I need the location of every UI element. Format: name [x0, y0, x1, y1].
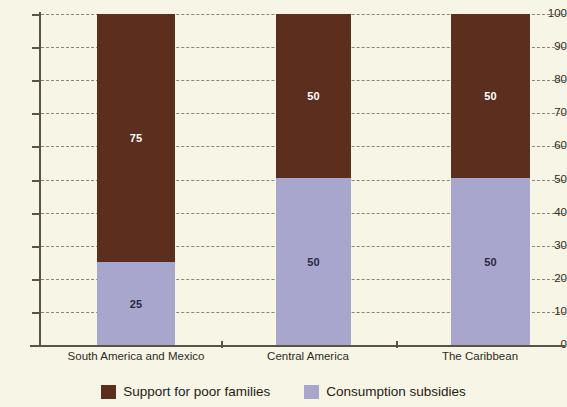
bar-segment-support-for-poor-families: 75 — [97, 14, 175, 262]
legend-label: Consumption subsidies — [326, 384, 466, 399]
y-tick-label-90: 90 — [539, 41, 567, 52]
bar-value-label: 75 — [130, 132, 143, 144]
bar-segment-support-for-poor-families: 50 — [451, 14, 530, 178]
y-tick-label-40: 40 — [539, 207, 567, 218]
stacked-bar-chart: 100 90 80 70 60 50 40 30 20 10 0 75 25 5… — [0, 0, 567, 407]
x-axis-label-central-america: Central America — [233, 350, 383, 362]
legend-item-consumption-subsidies: Consumption subsidies — [304, 384, 466, 399]
bar-value-label: 25 — [130, 298, 143, 310]
bar-central-america: 50 50 — [276, 14, 351, 345]
y-tick-label-70: 70 — [539, 107, 567, 118]
y-tick-label-50: 50 — [539, 174, 567, 185]
bar-segment-consumption-subsidies: 50 — [451, 178, 530, 345]
bar-value-label: 50 — [484, 256, 497, 268]
bar-value-label: 50 — [307, 90, 320, 102]
bar-the-caribbean: 50 50 — [451, 14, 530, 345]
x-tick-mark — [221, 341, 223, 348]
bar-segment-consumption-subsidies: 50 — [276, 178, 351, 345]
legend-label: Support for poor families — [123, 384, 270, 399]
bar-segment-support-for-poor-families: 50 — [276, 14, 351, 178]
bar-value-label: 50 — [307, 256, 320, 268]
x-axis-label-south-america-and-mexico: South America and Mexico — [41, 350, 231, 362]
bar-value-label: 50 — [484, 90, 497, 102]
x-axis-line — [30, 345, 565, 347]
legend-swatch-icon — [304, 385, 319, 399]
y-tick-label-60: 60 — [539, 140, 567, 151]
y-tick-label-10: 10 — [539, 306, 567, 317]
bar-segment-consumption-subsidies: 25 — [97, 262, 175, 345]
chart-legend: Support for poor families Consumption su… — [0, 384, 567, 399]
y-axis-line — [39, 12, 41, 347]
x-axis-label-the-caribbean: The Caribbean — [405, 350, 555, 362]
y-tick-label-30: 30 — [539, 240, 567, 251]
y-tick-label-20: 20 — [539, 273, 567, 284]
y-tick-label-80: 80 — [539, 74, 567, 85]
legend-swatch-icon — [101, 385, 116, 399]
legend-item-support-for-poor-families: Support for poor families — [101, 384, 270, 399]
x-tick-mark — [396, 341, 398, 348]
bar-south-america-and-mexico: 75 25 — [97, 14, 175, 345]
y-tick-label-100: 100 — [539, 8, 567, 19]
